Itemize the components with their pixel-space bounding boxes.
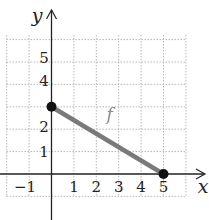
closed-endpoint [159, 169, 169, 179]
x-tick-label: 4 [136, 178, 146, 196]
y-tick-label: 1 [39, 143, 49, 161]
y-axis-label: y [31, 4, 43, 26]
y-tick-label: 2 [39, 118, 49, 136]
axis-labels: fyx [31, 4, 209, 197]
y-tick-label: 4 [39, 72, 49, 90]
x-tick-label: 2 [92, 178, 102, 196]
x-axis-label: x [198, 175, 209, 197]
function-label-f: f [105, 104, 116, 124]
x-tick-label: 1 [69, 178, 79, 196]
x-tick-label: −1 [14, 178, 36, 196]
y-tick-label: 5 [39, 49, 49, 67]
closed-endpoint [47, 102, 57, 112]
x-tick-label: 5 [159, 178, 169, 196]
x-tick-label: 3 [114, 178, 124, 196]
graph-of-f: −1123451245 fyx [0, 0, 209, 220]
